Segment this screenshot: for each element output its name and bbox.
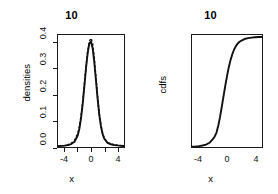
ytick-label: 0.3 — [38, 53, 48, 66]
panel-title-cdfs: 10 — [157, 9, 264, 21]
ytick-label: 0.0 — [38, 133, 48, 146]
plot-area-cdfs — [191, 34, 263, 148]
ytick-mark — [53, 68, 57, 69]
cdf-curve-solid — [192, 37, 262, 147]
xtick-label: -4 — [194, 154, 202, 164]
figure-canvas: 10 0.0 0.1 0.2 0.3 0.4 -4 0 4 x de — [0, 0, 278, 194]
ytick-mark — [53, 42, 57, 43]
xtick-mark — [118, 148, 119, 152]
xaxis-title: x — [157, 173, 264, 184]
xtick-mark — [64, 148, 65, 152]
xtick-label: 0 — [88, 154, 93, 164]
panel-densities: 10 0.0 0.1 0.2 0.3 0.4 -4 0 4 x de — [0, 0, 139, 194]
panel-title-densities: 10 — [18, 9, 125, 21]
xtick-label: 0 — [224, 154, 229, 164]
xtick-label: 4 — [115, 154, 120, 164]
xtick-mark — [105, 148, 106, 152]
xtick-mark — [77, 148, 78, 152]
ytick-mark — [53, 95, 57, 96]
cdfs-curve — [192, 35, 262, 147]
ytick-label: 0.4 — [38, 27, 48, 40]
xaxis-title: x — [18, 173, 125, 184]
xtick-label: 4 — [253, 154, 258, 164]
xtick-label: -4 — [60, 154, 68, 164]
ytick-mark — [53, 148, 57, 149]
yaxis-title: densities — [21, 64, 32, 102]
xtick-mark — [91, 148, 92, 152]
panel-cdfs: 10 0.0 0.4 0.8 -4 0 4 x cdfs — [139, 0, 278, 194]
plot-area-densities — [57, 34, 125, 148]
ytick-mark — [53, 121, 57, 122]
densities-curves — [58, 35, 124, 147]
density-curve-dashed — [58, 38, 124, 146]
ytick-label: 0.2 — [38, 80, 48, 93]
ytick-label: 0.1 — [38, 106, 48, 119]
yaxis-title: cdfs — [157, 76, 168, 93]
density-curve-solid — [58, 42, 124, 147]
